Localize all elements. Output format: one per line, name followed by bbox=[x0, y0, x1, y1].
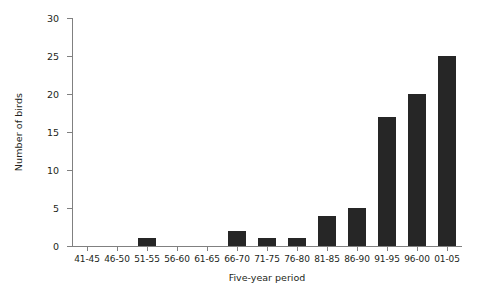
x-tick bbox=[207, 246, 208, 251]
y-tick: 30 bbox=[67, 18, 72, 19]
x-tick bbox=[117, 246, 118, 251]
x-tick-label: 61-65 bbox=[194, 254, 220, 264]
x-tick bbox=[327, 246, 328, 251]
x-tick bbox=[357, 246, 358, 251]
x-tick bbox=[387, 246, 388, 251]
bar bbox=[258, 238, 277, 246]
x-tick-label: 51-55 bbox=[134, 254, 160, 264]
y-tick-label: 25 bbox=[47, 51, 59, 62]
y-tick-label: 30 bbox=[47, 13, 59, 24]
bar bbox=[348, 208, 367, 246]
y-tick-label: 20 bbox=[47, 89, 59, 100]
y-tick: 10 bbox=[67, 170, 72, 171]
x-tick bbox=[87, 246, 88, 251]
y-tick: 0 bbox=[67, 246, 72, 247]
bar-chart-figure: Number of birds 051015202530 41-4546-505… bbox=[0, 0, 488, 298]
bar bbox=[288, 238, 307, 246]
x-tick bbox=[417, 246, 418, 251]
x-tick bbox=[237, 246, 238, 251]
y-tick: 25 bbox=[67, 56, 72, 57]
x-axis-title: Five-year period bbox=[72, 272, 462, 283]
x-tick-label: 66-70 bbox=[224, 254, 250, 264]
y-tick-label: 10 bbox=[47, 165, 59, 176]
x-tick bbox=[177, 246, 178, 251]
bar bbox=[138, 238, 157, 246]
y-tick: 20 bbox=[67, 94, 72, 95]
x-tick-label: 56-60 bbox=[164, 254, 190, 264]
x-tick-label: 96-00 bbox=[404, 254, 430, 264]
bar bbox=[228, 231, 247, 246]
x-tick bbox=[267, 246, 268, 251]
plot-area: 051015202530 41-4546-5051-5556-6061-6566… bbox=[72, 18, 462, 246]
y-tick: 15 bbox=[67, 132, 72, 133]
y-axis-line bbox=[72, 18, 73, 246]
y-tick-label: 0 bbox=[53, 241, 59, 252]
bar bbox=[378, 117, 397, 246]
x-tick-label: 91-95 bbox=[374, 254, 400, 264]
x-tick bbox=[447, 246, 448, 251]
bar bbox=[408, 94, 427, 246]
x-tick bbox=[297, 246, 298, 251]
x-tick-label: 81-85 bbox=[314, 254, 340, 264]
y-tick-label: 5 bbox=[53, 203, 59, 214]
y-tick: 5 bbox=[67, 208, 72, 209]
x-tick-label: 41-45 bbox=[74, 254, 100, 264]
x-tick-label: 46-50 bbox=[104, 254, 130, 264]
x-tick-label: 01-05 bbox=[434, 254, 460, 264]
x-tick bbox=[147, 246, 148, 251]
x-tick-label: 71-75 bbox=[254, 254, 280, 264]
y-tick-label: 15 bbox=[47, 127, 59, 138]
bar bbox=[438, 56, 457, 246]
x-tick-label: 76-80 bbox=[284, 254, 310, 264]
y-axis-title: Number of birds bbox=[12, 18, 26, 246]
x-tick-label: 86-90 bbox=[344, 254, 370, 264]
bar bbox=[318, 216, 337, 246]
